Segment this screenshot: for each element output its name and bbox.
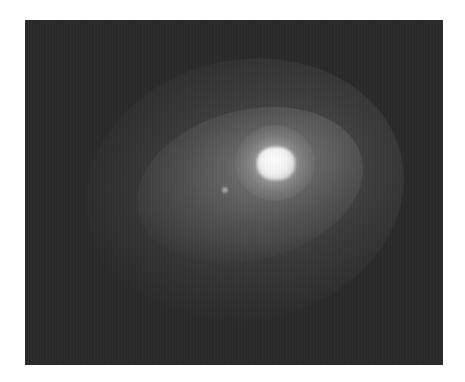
astronomical-image bbox=[25, 20, 443, 365]
sensor-noise bbox=[25, 20, 443, 365]
